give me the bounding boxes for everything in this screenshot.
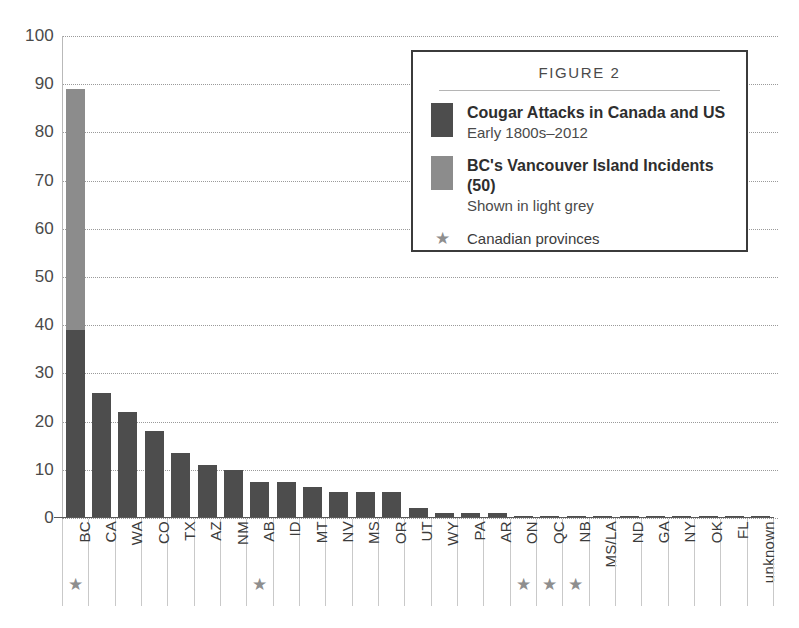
star-cell-mt — [300, 560, 326, 606]
y-tick-40: 40 — [10, 315, 54, 335]
bar-segment-dark — [118, 412, 137, 518]
y-tick-30: 30 — [10, 363, 54, 383]
bar-segment-dark — [329, 492, 348, 519]
legend-row-vancouver-island: BC's Vancouver Island Incidents (50) Sho… — [431, 156, 728, 216]
legend-box: FIGURE 2 Cougar Attacks in Canada and US… — [411, 50, 748, 252]
star-icon: ★ — [431, 228, 453, 249]
y-tick-70: 70 — [10, 171, 54, 191]
bar-ca — [88, 36, 114, 518]
star-icon: ★ — [252, 576, 267, 593]
star-cell-nv — [326, 560, 352, 606]
bar-segment-dark — [198, 465, 217, 518]
bar-tx — [168, 36, 194, 518]
legend-sublabel-secondary: Shown in light grey — [467, 196, 728, 216]
bar-segment-light — [66, 89, 85, 330]
bar-bc — [62, 36, 88, 518]
canadian-province-star-row: ★★★★★ — [62, 560, 774, 606]
star-cell-ga — [642, 560, 668, 606]
star-cell-fl — [721, 560, 747, 606]
y-tick-10: 10 — [10, 460, 54, 480]
bar-ab — [247, 36, 273, 518]
star-cell-qc: ★ — [537, 560, 563, 606]
bar-co — [141, 36, 167, 518]
bar-az — [194, 36, 220, 518]
y-tick-50: 50 — [10, 267, 54, 287]
star-cell-az — [195, 560, 221, 606]
y-tick-100: 100 — [10, 26, 54, 46]
legend-swatch-light — [431, 156, 453, 190]
y-tick-20: 20 — [10, 412, 54, 432]
legend-sublabel-primary: Early 1800s–2012 — [467, 123, 725, 143]
y-tick-0: 0 — [10, 508, 54, 528]
legend-label-primary: Cougar Attacks in Canada and US — [467, 103, 725, 123]
star-cell-ms-la — [590, 560, 616, 606]
bar-mt — [299, 36, 325, 518]
bar-unknown — [748, 36, 774, 518]
star-cell-ar — [484, 560, 510, 606]
legend-row-cougar-attacks: Cougar Attacks in Canada and US Early 18… — [431, 103, 728, 143]
star-cell-nb: ★ — [563, 560, 589, 606]
star-cell-pa — [458, 560, 484, 606]
bar-segment-dark — [356, 492, 375, 519]
y-tick-90: 90 — [10, 74, 54, 94]
bar-ms — [352, 36, 378, 518]
chart-canvas: 1009080706050403020100 BCCAWACOTXAZNMABI… — [0, 0, 799, 628]
star-cell-ms — [353, 560, 379, 606]
star-cell-on: ★ — [511, 560, 537, 606]
star-cell-ny — [669, 560, 695, 606]
bar-segment-dark — [382, 492, 401, 519]
bar-nm — [220, 36, 246, 518]
x-axis-line — [54, 517, 774, 518]
star-cell-wa — [116, 560, 142, 606]
bar-segment-dark — [250, 482, 269, 518]
bar-segment-dark — [66, 330, 85, 518]
bar-segment-dark — [224, 470, 243, 518]
star-cell-ok — [695, 560, 721, 606]
bar-segment-dark — [277, 482, 296, 518]
star-cell-or — [379, 560, 405, 606]
legend-row-provinces: ★ Canadian provinces — [431, 228, 728, 249]
legend-label-secondary: BC's Vancouver Island Incidents (50) — [467, 156, 728, 196]
y-tick-80: 80 — [10, 122, 54, 142]
legend-divider — [439, 90, 720, 91]
star-cell-co — [142, 560, 168, 606]
star-icon: ★ — [516, 576, 531, 593]
star-cell-bc: ★ — [62, 560, 89, 606]
y-tick-60: 60 — [10, 219, 54, 239]
star-cell-nm — [221, 560, 247, 606]
bar-nv — [326, 36, 352, 518]
legend-label-provinces: Canadian provinces — [467, 230, 600, 247]
star-icon: ★ — [542, 576, 557, 593]
bar-segment-dark — [303, 487, 322, 518]
bar-wa — [115, 36, 141, 518]
star-cell-wy — [432, 560, 458, 606]
bar-segment-dark — [171, 453, 190, 518]
star-icon: ★ — [568, 576, 583, 593]
star-icon: ★ — [68, 576, 83, 593]
legend-title: FIGURE 2 — [431, 64, 728, 90]
legend-swatch-dark — [431, 103, 453, 137]
bar-id — [273, 36, 299, 518]
star-cell-id — [274, 560, 300, 606]
star-cell-ut — [405, 560, 431, 606]
star-cell-unknown — [748, 560, 774, 606]
star-cell-nd — [616, 560, 642, 606]
star-cell-tx — [168, 560, 194, 606]
bar-or — [379, 36, 405, 518]
bar-segment-dark — [145, 431, 164, 518]
star-cell-ab: ★ — [247, 560, 273, 606]
bar-segment-dark — [92, 393, 111, 518]
star-cell-ca — [89, 560, 115, 606]
